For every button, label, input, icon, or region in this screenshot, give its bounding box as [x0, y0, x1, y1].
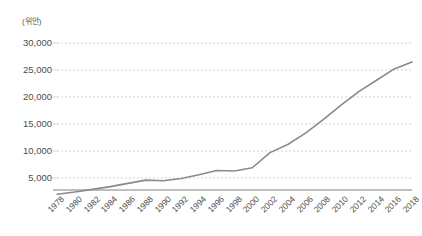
line-chart: (위안) 30,00025,00020,00015,00010,0005,000…	[0, 0, 422, 236]
data-line-series-1	[57, 62, 412, 194]
axis-ticks	[53, 43, 57, 178]
gridlines	[57, 43, 412, 178]
